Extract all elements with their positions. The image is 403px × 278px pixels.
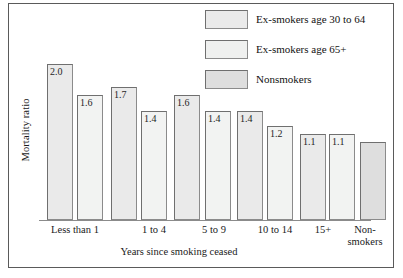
- legend-item-0[interactable]: Ex-smokers age 30 to 64: [205, 8, 394, 38]
- xtick-label-5-line2: smokers: [337, 236, 393, 248]
- legend: Ex-smokers age 30 to 64 Ex-smokers age 6…: [205, 8, 394, 98]
- bar-value-label-5: 1.4: [208, 113, 221, 124]
- bar-6[interactable]: 1.4: [237, 111, 263, 220]
- plot-area: Mortality ratio 2.01.61.71.41.61.41.41.2…: [9, 4, 393, 267]
- bar-7[interactable]: 1.2: [267, 126, 293, 220]
- legend-swatch-icon-0: [205, 10, 248, 29]
- bar-value-label-1: 1.6: [80, 97, 93, 108]
- legend-label-1: Ex-smokers age 65+: [256, 41, 347, 58]
- bar-value-label-0: 2.0: [50, 66, 63, 77]
- bar-4[interactable]: 1.6: [174, 95, 200, 220]
- bar-value-label-3: 1.4: [144, 113, 157, 124]
- bar-0[interactable]: 2.0: [47, 64, 73, 220]
- xtick-label-5-line1: Non-: [337, 224, 393, 236]
- legend-swatch-icon-1: [205, 40, 248, 59]
- bar-value-label-4: 1.6: [177, 97, 190, 108]
- bar-5[interactable]: 1.4: [205, 111, 231, 220]
- legend-item-2[interactable]: Nonsmokers: [205, 68, 394, 98]
- legend-label-2: Nonsmokers: [256, 71, 312, 88]
- bar-8[interactable]: 1.1: [300, 134, 326, 220]
- x-axis-baseline: [39, 220, 371, 221]
- bar-value-label-2: 1.7: [114, 89, 127, 100]
- figure-frame: Mortality ratio 2.01.61.71.41.61.41.41.2…: [8, 3, 394, 268]
- bar-1[interactable]: 1.6: [77, 95, 103, 220]
- legend-label-0: Ex-smokers age 30 to 64: [256, 11, 365, 28]
- legend-item-1[interactable]: Ex-smokers age 65+: [205, 38, 394, 68]
- xtick-label-0: Less than 1: [27, 224, 123, 236]
- legend-swatch-icon-2: [205, 70, 248, 89]
- clipped-caption-strip: [22, 0, 202, 4]
- bar-10[interactable]: [360, 142, 386, 220]
- bar-value-label-8: 1.1: [303, 136, 316, 147]
- bar-2[interactable]: 1.7: [111, 87, 137, 220]
- bar-value-label-7: 1.2: [270, 128, 283, 139]
- bar-value-label-9: 1.1: [332, 136, 345, 147]
- x-axis-label: Years since smoking ceased: [49, 246, 309, 257]
- bar-3[interactable]: 1.4: [141, 111, 167, 220]
- bar-9[interactable]: 1.1: [329, 134, 355, 220]
- bar-value-label-6: 1.4: [240, 113, 253, 124]
